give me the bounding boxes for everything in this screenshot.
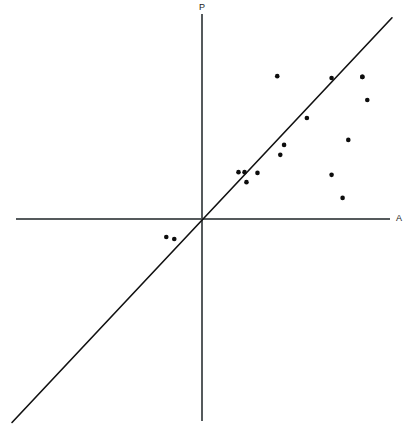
data-point-group <box>164 74 370 241</box>
data-point <box>164 235 169 240</box>
y-axis-label: P <box>199 2 205 12</box>
data-point <box>305 116 310 121</box>
scatter-plot-figure: P A <box>0 0 416 425</box>
data-point <box>282 143 287 148</box>
data-point <box>340 196 345 201</box>
plot-canvas <box>0 0 416 425</box>
data-point <box>278 153 283 158</box>
data-point <box>275 74 280 79</box>
data-point <box>346 138 351 143</box>
data-point <box>329 76 334 81</box>
data-point <box>236 170 241 175</box>
data-point <box>242 170 247 175</box>
data-point <box>255 171 260 176</box>
x-axis-label: A <box>396 213 402 223</box>
data-point <box>360 75 365 80</box>
data-point <box>365 98 370 103</box>
data-point <box>244 180 249 185</box>
data-point <box>172 237 177 242</box>
data-point <box>329 173 334 178</box>
